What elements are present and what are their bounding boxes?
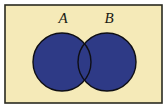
set-b-label: B xyxy=(104,10,113,26)
venn-diagram: A B xyxy=(0,0,165,110)
set-a-label: A xyxy=(57,10,68,26)
